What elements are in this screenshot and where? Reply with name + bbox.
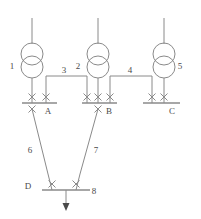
transformer-2-label: 2: [76, 61, 81, 71]
single-line-diagram-canvas: 1 2 5 3 4 A B C D 6 7 8: [0, 0, 201, 219]
feeder-7-label: 7: [94, 145, 99, 155]
tie-line-3-label: 3: [62, 65, 67, 75]
breaker-d-feeder6[interactable]: [49, 181, 56, 188]
busbar-d-label: D: [25, 181, 32, 191]
transformer-2-upper-winding-icon: [87, 43, 109, 65]
breaker-b-feeder7[interactable]: [95, 106, 102, 113]
transformer-1-lower-winding-icon: [21, 56, 43, 78]
transformer-5-lower-winding-icon: [153, 56, 175, 78]
transformer-1-label: 1: [10, 61, 15, 71]
breaker-d-feeder7[interactable]: [73, 181, 80, 188]
tie-line-4-label: 4: [128, 65, 133, 75]
load-arrow-icon: [63, 203, 70, 211]
transformer-2-lower-winding-icon: [87, 56, 109, 78]
load-8-group: [63, 190, 70, 211]
tie-line-4-group: [110, 76, 152, 103]
tie-line-3-group: [46, 76, 87, 103]
transformer-2-group: [87, 18, 109, 103]
busbar-a-label: A: [45, 106, 52, 116]
feeder-6-label: 6: [28, 145, 33, 155]
transformer-1-group: [21, 18, 43, 103]
feeder-line-6-group: [32, 109, 52, 190]
breaker-a-feeder6[interactable]: [29, 106, 36, 113]
transformer-1-upper-winding-icon: [21, 43, 43, 65]
transformer-5-upper-winding-icon: [153, 43, 175, 65]
transformer-5-label: 5: [178, 61, 183, 71]
busbar-c-label: C: [169, 106, 175, 116]
single-line-diagram-svg: 1 2 5 3 4 A B C D 6 7 8: [0, 0, 201, 219]
busbar-b-label: B: [106, 106, 112, 116]
feeder-6-conductor: [32, 109, 52, 190]
load-8-label: 8: [92, 186, 97, 196]
transformer-5-group: [153, 18, 175, 103]
